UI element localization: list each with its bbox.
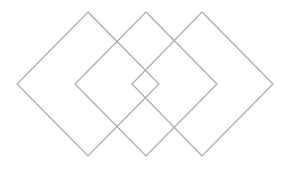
diamond-left [17,12,159,156]
diamond-right [132,12,273,156]
diamond-middle [75,12,217,156]
diamond-diagram [0,0,290,170]
